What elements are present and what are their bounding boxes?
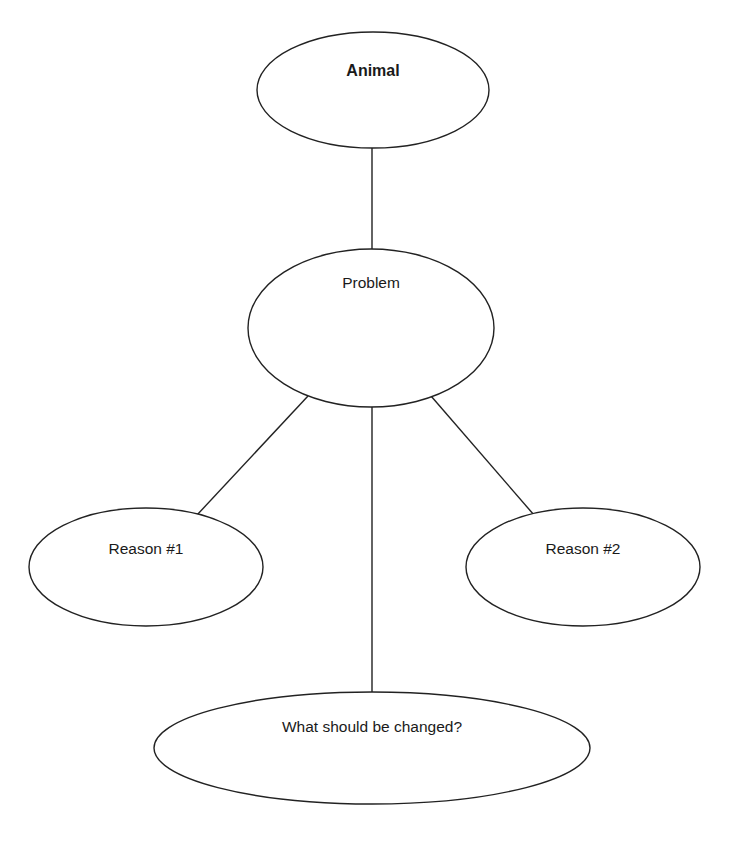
node-label-animal: Animal (346, 62, 399, 80)
node-shapes (29, 32, 700, 804)
node-label-problem: Problem (342, 274, 400, 292)
ellipse-reason1 (29, 508, 263, 626)
node-label-what-should-be-changed: What should be changed? (282, 718, 462, 736)
node-label-reason-1: Reason #1 (109, 540, 184, 558)
node-label-reason-2: Reason #2 (546, 540, 621, 558)
ellipse-reason2 (466, 508, 700, 626)
connector-problem-reason1 (197, 396, 308, 515)
diagram-canvas (0, 0, 734, 843)
connector-problem-reason2 (431, 396, 534, 515)
ellipse-animal (257, 32, 489, 148)
ellipse-change (154, 692, 590, 804)
ellipse-problem (248, 249, 494, 407)
connector-lines (197, 148, 534, 692)
